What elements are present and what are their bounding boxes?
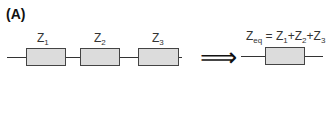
impedance-label-2: Z2 — [94, 31, 106, 47]
equivalent-impedance-box — [265, 47, 305, 65]
double-right-arrow-icon: ⟹ — [200, 44, 237, 70]
impedance-box-3 — [138, 48, 179, 66]
panel-label: (A) — [6, 6, 25, 22]
impedance-box-2 — [80, 48, 120, 66]
impedance-label-1: Z1 — [37, 31, 49, 47]
equivalent-formula: Zeq = Z1+Z2+Z3 — [246, 29, 325, 45]
impedance-label-3: Z3 — [152, 31, 164, 47]
impedance-box-1 — [26, 48, 66, 66]
